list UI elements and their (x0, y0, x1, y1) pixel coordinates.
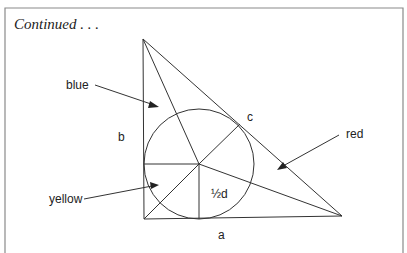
blue-arrow-head (148, 101, 159, 108)
yellow-arrow-line (84, 186, 152, 199)
label-side-c: c (247, 110, 253, 124)
label-blue: blue (66, 78, 89, 92)
page-title: Continued . . . (14, 16, 99, 32)
blue-arrow-line (95, 85, 154, 105)
label-red: red (346, 127, 363, 141)
radius-hypotenuse (199, 124, 240, 164)
label-yellow: yellow (49, 192, 83, 206)
center-to-top-vertex (143, 39, 199, 164)
red-arrow-line (283, 135, 339, 166)
center-to-bottom-left-vertex (144, 164, 199, 219)
label-half-d: ½d (211, 187, 228, 201)
right-triangle (143, 39, 342, 219)
yellow-arrow-head (150, 182, 159, 189)
label-side-a: a (218, 228, 225, 242)
frame-border (5, 8, 403, 253)
diagram-canvas: Continued . . . blue yellow red b c a ½d (0, 0, 407, 253)
label-side-b: b (118, 130, 125, 144)
